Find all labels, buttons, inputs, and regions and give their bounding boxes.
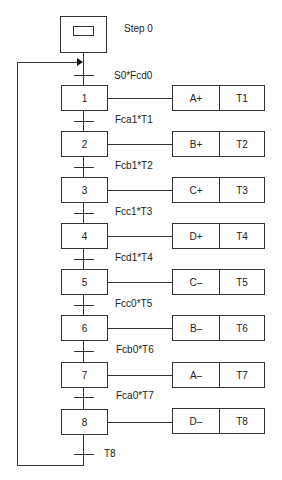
action-label-3: C+ (173, 178, 219, 202)
timer-label-1: T1 (219, 86, 264, 110)
action-link-2 (108, 144, 172, 145)
step-box-1: 1 (61, 85, 108, 111)
transition-label-7: Fcb0*T6 (116, 344, 154, 355)
transition-label-8: Fca0*T7 (116, 390, 154, 401)
transition-label-6: Fcc0*T5 (115, 298, 152, 309)
transition-label-2: Fca1*T1 (115, 114, 153, 125)
initial-step-label: Step 0 (124, 23, 153, 34)
loop-bottom-line (17, 465, 84, 466)
initial-step-inner-box (73, 26, 94, 36)
action-box-6: B– T6 (172, 315, 265, 341)
transition-tick-final (74, 454, 94, 455)
step-box-3: 3 (61, 177, 108, 203)
action-label-8: D– (173, 409, 219, 433)
transition-tick-1 (74, 75, 94, 76)
transition-tick-3 (74, 167, 94, 168)
transition-tick-8 (74, 397, 94, 398)
action-box-3: C+ T3 (172, 177, 265, 203)
transition-tick-4 (74, 213, 94, 214)
timer-label-5: T5 (219, 270, 264, 294)
action-label-6: B– (173, 316, 219, 340)
loop-arrow-icon (77, 58, 83, 66)
action-link-8 (108, 422, 172, 423)
action-box-2: B+ T2 (172, 131, 265, 157)
timer-label-8: T8 (219, 409, 264, 433)
action-label-7: A– (173, 363, 219, 387)
transition-label-4: Fcc1*T3 (115, 206, 152, 217)
action-box-8: D– T8 (172, 408, 265, 434)
action-box-1: A+ T1 (172, 85, 265, 111)
initial-step-box (60, 16, 107, 53)
step-box-8: 8 (61, 409, 108, 435)
action-box-4: D+ T4 (172, 223, 265, 249)
action-label-2: B+ (173, 132, 219, 156)
action-link-4 (108, 236, 172, 237)
transition-tick-2 (74, 121, 94, 122)
step-box-2: 2 (61, 131, 108, 157)
transition-tick-6 (74, 305, 94, 306)
action-link-7 (108, 375, 172, 376)
step-box-6: 6 (61, 315, 108, 341)
action-label-5: C– (173, 270, 219, 294)
transition-label-5: Fcd1*T4 (115, 252, 153, 263)
action-label-1: A+ (173, 86, 219, 110)
transition-tick-7 (74, 351, 94, 352)
transition-label-1: S0*Fcd0 (114, 70, 152, 81)
action-link-3 (108, 190, 172, 191)
loop-left-line (17, 62, 18, 466)
loop-top-line (17, 62, 77, 63)
action-label-4: D+ (173, 224, 219, 248)
step-box-4: 4 (61, 223, 108, 249)
action-link-5 (108, 282, 172, 283)
timer-label-3: T3 (219, 178, 264, 202)
timer-label-6: T6 (219, 316, 264, 340)
timer-label-2: T2 (219, 132, 264, 156)
transition-tick-5 (74, 259, 94, 260)
action-box-5: C– T5 (172, 269, 265, 295)
step-box-5: 5 (61, 269, 108, 295)
timer-label-7: T7 (219, 363, 264, 387)
action-box-7: A– T7 (172, 362, 265, 388)
action-link-1 (108, 98, 172, 99)
transition-label-final: T8 (104, 448, 116, 459)
step-box-7: 7 (61, 362, 108, 388)
timer-label-4: T4 (219, 224, 264, 248)
action-link-6 (108, 328, 172, 329)
transition-label-3: Fcb1*T2 (115, 160, 153, 171)
